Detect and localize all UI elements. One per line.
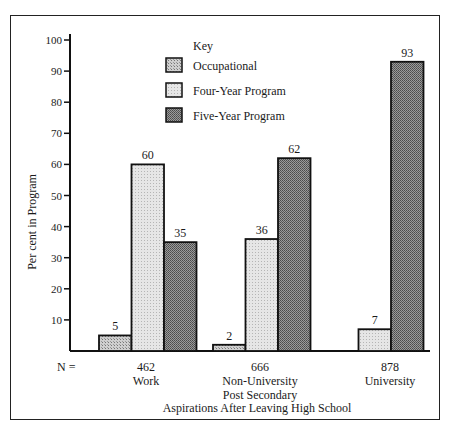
bar-five-year-program bbox=[278, 158, 311, 351]
category-label: Non-University bbox=[222, 374, 297, 388]
bar-value-label: 2 bbox=[226, 329, 232, 343]
y-tick-label: 70 bbox=[51, 127, 63, 139]
legend: KeyOccupationalFour-Year ProgramFive-Yea… bbox=[166, 39, 287, 123]
bar-four-year-program bbox=[246, 239, 279, 351]
legend-label: Five-Year Program bbox=[193, 109, 285, 123]
bar-four-year-program bbox=[359, 329, 392, 351]
legend-swatch bbox=[166, 83, 182, 97]
bar-value-label: 60 bbox=[142, 148, 154, 162]
legend-swatch bbox=[166, 108, 182, 122]
x-axis-title: Aspirations After Leaving High School bbox=[163, 401, 352, 415]
legend-swatch bbox=[166, 58, 182, 72]
bar-value-label: 36 bbox=[256, 223, 268, 237]
axes: 102030405060708090100 bbox=[46, 34, 431, 351]
legend-label: Occupational bbox=[193, 59, 258, 73]
y-tick-label: 30 bbox=[51, 252, 63, 264]
bar-chart: 102030405060708090100 5603523662793 KeyO… bbox=[0, 0, 451, 435]
y-tick-label: 100 bbox=[46, 34, 63, 46]
bar-five-year-program bbox=[164, 242, 197, 351]
y-tick-label: 60 bbox=[51, 158, 63, 170]
bar-value-label: 62 bbox=[288, 142, 300, 156]
bar-occupational bbox=[99, 335, 132, 351]
bar-occupational bbox=[213, 345, 246, 351]
n-label: N = bbox=[57, 360, 76, 374]
category-label: Post Secondary bbox=[223, 388, 297, 402]
category-label: University bbox=[365, 374, 416, 388]
n-value: 878 bbox=[381, 360, 399, 374]
legend-label: Four-Year Program bbox=[193, 84, 287, 98]
bar-five-year-program bbox=[391, 62, 424, 351]
category-label: Work bbox=[133, 374, 159, 388]
y-tick-label: 90 bbox=[51, 65, 63, 77]
bar-value-label: 5 bbox=[112, 319, 118, 333]
bar-value-label: 35 bbox=[174, 226, 186, 240]
y-tick-label: 10 bbox=[51, 314, 63, 326]
legend-title: Key bbox=[193, 39, 213, 53]
axis-labels: Per cent in ProgramN =462666878WorkNon-U… bbox=[25, 174, 415, 415]
y-tick-label: 50 bbox=[51, 190, 63, 202]
y-tick-label: 20 bbox=[51, 283, 63, 295]
y-axis-title: Per cent in Program bbox=[25, 174, 39, 270]
bar-value-label: 93 bbox=[401, 46, 413, 60]
bar-value-label: 7 bbox=[372, 313, 378, 327]
n-value: 666 bbox=[251, 360, 269, 374]
y-tick-label: 80 bbox=[51, 96, 63, 108]
bar-four-year-program bbox=[132, 164, 165, 351]
y-tick-label: 40 bbox=[51, 221, 63, 233]
n-value: 462 bbox=[137, 360, 155, 374]
